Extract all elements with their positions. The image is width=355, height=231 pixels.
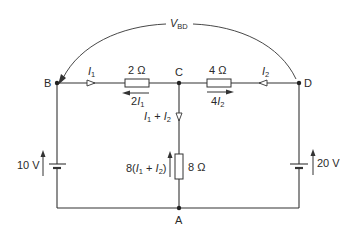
node-d-label: D bbox=[304, 77, 312, 89]
vbd-arc-left bbox=[63, 24, 166, 78]
source-20v-label: 20 V bbox=[317, 157, 340, 169]
resistor-4ohm bbox=[207, 79, 231, 87]
resistor-4ohm-value: 4 Ω bbox=[209, 64, 226, 76]
current-i1-arrow-icon bbox=[87, 80, 95, 86]
resistor-8ohm-value: 8 Ω bbox=[188, 161, 205, 173]
circuit-diagram: VBD B C D A I1 I2 I1 + I2 2 Ω 4 Ω 8 Ω 2I… bbox=[0, 0, 355, 231]
drop-2i1-arrow-icon bbox=[122, 91, 130, 96]
current-sum-arrow-icon bbox=[176, 113, 182, 121]
node-b-dot bbox=[55, 81, 59, 85]
node-c-label: C bbox=[175, 66, 183, 78]
node-d-dot bbox=[297, 81, 301, 85]
source-10v-arrow-icon bbox=[41, 150, 46, 157]
drop-2i1-label: 2I1 bbox=[131, 95, 144, 109]
current-i2-arrow-icon bbox=[259, 80, 267, 86]
resistor-2ohm bbox=[125, 79, 149, 87]
node-c-dot bbox=[177, 81, 181, 85]
source-10v-label: 10 V bbox=[17, 159, 40, 171]
node-a-dot bbox=[177, 206, 181, 210]
drop-4i2-label: 4I2 bbox=[211, 95, 224, 109]
vbd-label: VBD bbox=[170, 17, 188, 31]
node-b-label: B bbox=[44, 77, 51, 89]
resistor-8ohm bbox=[175, 154, 183, 179]
drop-8-label: 8(I1 + I2) bbox=[126, 162, 166, 176]
current-sum-label: I1 + I2 bbox=[144, 110, 171, 124]
current-i2-label: I2 bbox=[262, 65, 269, 79]
current-i1-label: I1 bbox=[88, 65, 95, 79]
drop-8-arrow-icon bbox=[168, 151, 173, 158]
drop-4i2-arrow-icon bbox=[226, 90, 234, 95]
source-20v-arrow-icon bbox=[311, 149, 316, 156]
resistor-2ohm-value: 2 Ω bbox=[128, 64, 145, 76]
node-a-label: A bbox=[175, 214, 183, 226]
